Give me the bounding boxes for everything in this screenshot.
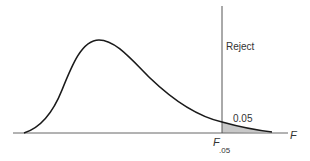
area-label: 0.05 xyxy=(233,113,253,124)
critical-value-subscript: .05 xyxy=(219,146,231,155)
reject-label: Reject xyxy=(226,41,255,52)
axis-label-f: F xyxy=(290,129,298,141)
f-distribution-diagram: Reject 0.05 F F .05 xyxy=(0,0,310,161)
